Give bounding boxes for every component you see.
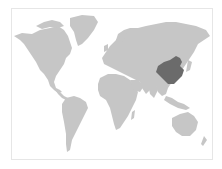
world-map: [0, 0, 222, 169]
north-america: [14, 26, 72, 93]
india: [148, 84, 158, 98]
south-america: [62, 96, 88, 152]
continents: [14, 15, 210, 152]
madagascar: [131, 110, 135, 120]
australia: [172, 112, 198, 136]
southeast-asia-islands: [164, 96, 190, 110]
new-zealand: [201, 136, 207, 146]
greenland: [70, 15, 98, 46]
